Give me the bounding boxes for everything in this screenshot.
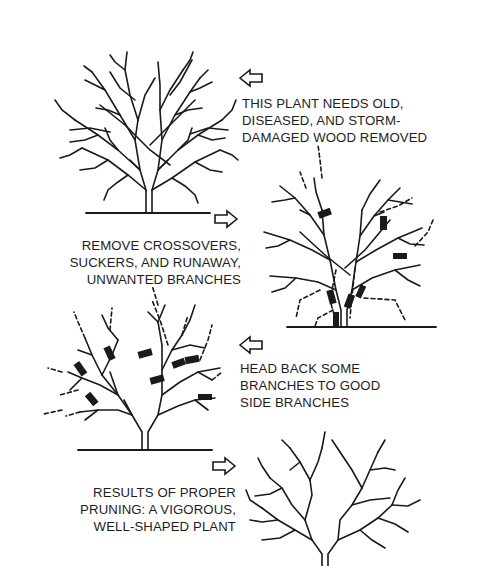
tree-2-remove-crossovers	[264, 145, 436, 327]
caption-step-1: THIS PLANT NEEDS OLD, DISEASED, AND STOR…	[242, 95, 427, 146]
caption-line: RESULTS OF PROPER	[80, 484, 236, 501]
caption-line: SUCKERS, AND RUNAWAY,	[70, 254, 241, 271]
arrow-right-icon	[213, 458, 235, 474]
arrow-left-icon	[240, 337, 262, 353]
tree-3-head-back	[44, 285, 222, 450]
pruning-diagram: THIS PLANT NEEDS OLD, DISEASED, AND STOR…	[0, 0, 481, 566]
caption-step-2: REMOVE CROSSOVERS, SUCKERS, AND RUNAWAY,…	[70, 237, 241, 288]
arrow-left-icon	[240, 70, 262, 86]
caption-line: THIS PLANT NEEDS OLD,	[242, 95, 427, 112]
caption-line: HEAD BACK SOME	[240, 360, 380, 377]
caption-line: PRUNING: A VIGOROUS,	[80, 501, 236, 518]
caption-line: WELL-SHAPED PLANT	[80, 518, 236, 535]
caption-step-4: RESULTS OF PROPER PRUNING: A VIGOROUS, W…	[80, 484, 236, 535]
tree-4-pruned	[246, 432, 420, 566]
caption-line: DAMAGED WOOD REMOVED	[242, 129, 427, 146]
caption-line: REMOVE CROSSOVERS,	[70, 237, 241, 254]
arrow-right-icon	[215, 211, 237, 227]
caption-line: BRANCHES TO GOOD	[240, 377, 380, 394]
caption-line: UNWANTED BRANCHES	[70, 271, 241, 288]
caption-line: SIDE BRANCHES	[240, 394, 380, 411]
caption-step-3: HEAD BACK SOME BRANCHES TO GOOD SIDE BRA…	[240, 360, 380, 411]
caption-line: DISEASED, AND STORM-	[242, 112, 427, 129]
tree-1-overgrown	[55, 52, 238, 213]
